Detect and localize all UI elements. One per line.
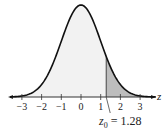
shaded-tail-area (106, 56, 156, 97)
z0-annotation: z0 = 1.28 (98, 114, 141, 130)
tick-label: −2 (36, 101, 47, 112)
tick-label: 0 (79, 101, 84, 112)
tick-label: −1 (56, 101, 67, 112)
annotation-leader-line (106, 97, 110, 113)
z0-value: = 1.28 (108, 114, 142, 128)
tick-label: 3 (138, 101, 143, 112)
axis-label-z: z (156, 90, 162, 102)
curve-area-fill (10, 5, 156, 97)
tick-label: −3 (17, 101, 28, 112)
tick-label: 1 (98, 101, 103, 112)
normal-distribution-chart: −3−2−10123 z z0 = 1.28 (0, 0, 168, 132)
tick-label: 2 (118, 101, 123, 112)
